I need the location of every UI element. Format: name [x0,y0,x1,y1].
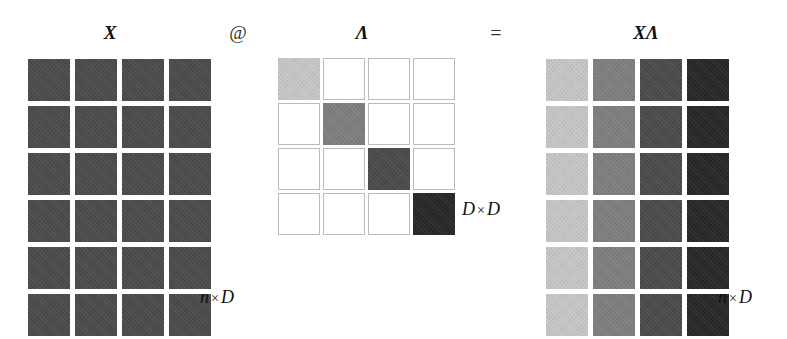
matrix-cell [323,193,365,235]
matrix-cell [75,153,117,195]
matrix-cell [122,106,164,148]
equals-operator: = [472,22,520,45]
matrix-cell [593,200,635,242]
matrix-cell [278,148,320,190]
matrix-cell [546,247,588,289]
matrix-cell [323,58,365,100]
matrix-diagonal-cell [323,103,365,145]
matrix-cell [323,148,365,190]
matrix-cell [169,200,211,242]
matrix-diagonal-cell [368,148,410,190]
matrix-cell [75,294,117,336]
matrix-cell [546,153,588,195]
matrix-cell [169,153,211,195]
x-matrix-label: X [78,22,142,44]
lambda-matrix-label: Λ [330,22,394,44]
matrix-cell [169,106,211,148]
matrix-cell [28,153,70,195]
matrix-x [28,59,211,336]
matrix-cell [546,59,588,101]
matrix-cell [75,200,117,242]
dim-cols: D [739,287,752,307]
product-matrix-label: XΛ [610,22,682,44]
matrix-cell [28,200,70,242]
matrix-cell [28,247,70,289]
matrix-cell [368,58,410,100]
matrix-cell [640,153,682,195]
dim-rows: n [200,287,209,307]
matrix-cell [546,294,588,336]
matmul-operator: @ [214,22,262,44]
matrix-cell [122,200,164,242]
x-matrix-dimension-label: n×D [200,287,234,308]
times-icon: × [727,291,739,306]
matrix-cell [593,247,635,289]
lambda-matrix-dimension-label: D×D [462,199,500,220]
times-icon: × [475,203,487,218]
matrix-cell [413,58,455,100]
matrix-cell [278,193,320,235]
matrix-cell [640,247,682,289]
matrix-cell [75,247,117,289]
matrix-cell [593,106,635,148]
matrix-lambda [278,58,455,235]
matrix-cell [546,106,588,148]
matrix-cell [28,106,70,148]
matrix-cell [593,294,635,336]
matrix-multiplication-figure: X @ Λ = XΛ n×D [0,0,787,339]
matrix-cell [546,200,588,242]
matrix-cell [122,59,164,101]
matrix-cell [687,153,729,195]
matrix-cell [122,153,164,195]
matrix-cell [640,200,682,242]
matrix-cell [169,59,211,101]
matrix-cell [413,148,455,190]
matrix-cell [687,247,729,289]
matrix-cell [169,247,211,289]
dim-rows: n [718,287,727,307]
matrix-cell [593,153,635,195]
matrix-cell [122,294,164,336]
matrix-diagonal-cell [278,58,320,100]
matrix-cell [28,294,70,336]
matrix-cell [687,106,729,148]
matrix-cell [687,59,729,101]
dim-cols: D [221,287,234,307]
matrix-cell [122,247,164,289]
matrix-cell [368,103,410,145]
product-matrix-dimension-label: n×D [718,287,752,308]
matrix-cell [640,59,682,101]
matrix-cell [278,103,320,145]
matrix-cell [640,106,682,148]
matrix-cell [413,103,455,145]
matrix-cell [28,59,70,101]
matrix-cell [687,200,729,242]
matrix-cell [593,59,635,101]
matrix-diagonal-cell [413,193,455,235]
matrix-cell [640,294,682,336]
matrix-cell [75,106,117,148]
matrix-cell [368,193,410,235]
dim-rows: D [462,199,475,219]
matrix-x-lambda [546,59,729,336]
matrix-cell [75,59,117,101]
times-icon: × [209,291,221,306]
dim-cols: D [487,199,500,219]
